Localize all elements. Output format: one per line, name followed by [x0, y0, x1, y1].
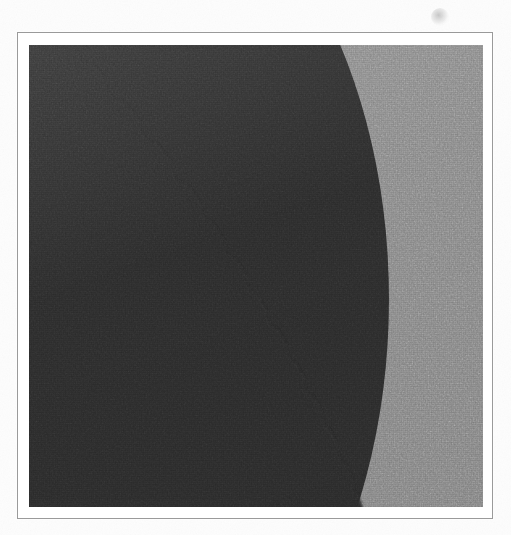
scanned-page: Two-tone halftone field: a dark region o…	[0, 0, 511, 535]
figure-frame-border	[17, 32, 493, 519]
ink-smudge-artifact	[431, 8, 449, 26]
dark-tone-region	[29, 45, 389, 507]
figure-matte	[18, 33, 492, 518]
halftone-image-plate	[29, 45, 483, 507]
